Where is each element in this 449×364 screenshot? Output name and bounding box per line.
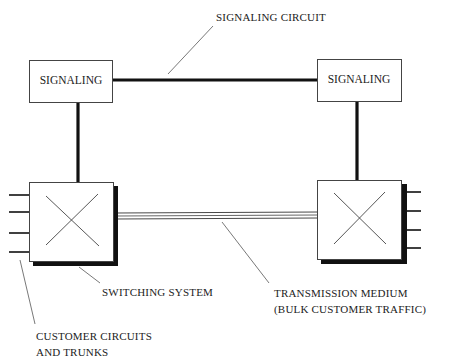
transmission-medium-leader (222, 222, 269, 283)
signaling-circuit-leader (168, 26, 213, 74)
customer-circuit-stubs-right (407, 192, 421, 248)
signaling-circuit-label: SIGNALING CIRCUIT (216, 11, 326, 23)
transmission-medium-line (115, 212, 318, 219)
switching-system-left (9, 183, 118, 267)
switching-system-right (318, 181, 422, 265)
customer-circuits-label-line1: CUSTOMER CIRCUITS (36, 330, 152, 342)
signaling-box-left: SIGNALING (30, 61, 113, 103)
network-diagram: SIGNALING SIGNALING (0, 0, 449, 364)
signaling-left-label: SIGNALING (40, 74, 103, 86)
customer-circuit-stubs-left (9, 195, 29, 252)
customer-circuits-label-line2: AND TRUNKS (36, 346, 108, 358)
signaling-box-right: SIGNALING (318, 60, 402, 102)
switching-system-leader (79, 267, 100, 283)
signaling-right-label: SIGNALING (328, 73, 391, 85)
switching-system-label: SWITCHING SYSTEM (102, 286, 213, 298)
transmission-medium-label-line1: TRANSMISSION MEDIUM (274, 287, 408, 299)
customer-circuits-leader (20, 260, 35, 324)
transmission-medium-label-line2: (BULK CUSTOMER TRAFFIC) (274, 303, 426, 316)
